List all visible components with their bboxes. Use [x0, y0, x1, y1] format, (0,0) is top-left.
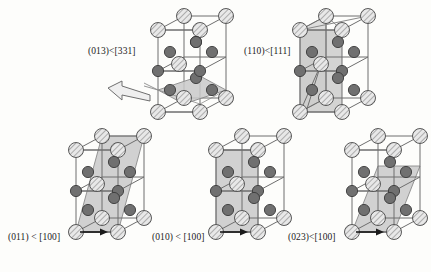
outline-arrow-013: [106, 78, 162, 112]
cell-label-023-100: (023)<[100]: [288, 232, 336, 242]
corner-atoms: [151, 9, 234, 120]
unit-cell-023-100: [338, 128, 430, 256]
unit-cell-010-100: [202, 128, 294, 256]
unit-cell-013-331: [144, 8, 236, 134]
cell-label-110-111: (110)<[111]: [244, 46, 291, 56]
cell-label-013-331: (013)<[331]: [88, 46, 136, 56]
unit-cell-110-111: [286, 8, 378, 134]
slip-systems-figure: (013)<[331] (110)<[111] (011) < [100] (0…: [0, 0, 431, 272]
cell-label-011-100: (011) < [100]: [8, 232, 60, 242]
cell-label-010-100: (010) < [100]: [152, 232, 205, 242]
unit-cell-011-100: [62, 128, 154, 256]
